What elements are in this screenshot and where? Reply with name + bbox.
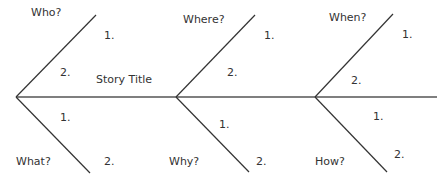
question-where: Where? [183,14,225,25]
where-item-2: 2. [227,67,238,78]
when-item-1: 1. [402,29,413,40]
question-why: Why? [169,156,199,167]
question-when: When? [329,12,366,23]
what-item-2: 2. [104,156,115,167]
question-how: How? [315,156,345,167]
fishbone-diagram: Story Title Who? 1. 2. What? 1. 2. Where… [0,0,448,187]
branch-where-line [176,15,255,97]
when-item-2: 2. [351,75,362,86]
who-item-1: 1. [104,30,115,41]
branch-who-line [16,15,96,97]
where-item-1: 1. [264,30,275,41]
story-title: Story Title [96,74,152,85]
why-item-2: 2. [256,156,267,167]
question-who: Who? [31,7,61,18]
how-item-1: 1. [373,111,384,122]
why-item-1: 1. [219,119,230,130]
diagram-lines [0,0,448,187]
question-what: What? [16,156,51,167]
how-item-2: 2. [394,149,405,160]
what-item-1: 1. [60,112,71,123]
who-item-2: 2. [60,67,71,78]
